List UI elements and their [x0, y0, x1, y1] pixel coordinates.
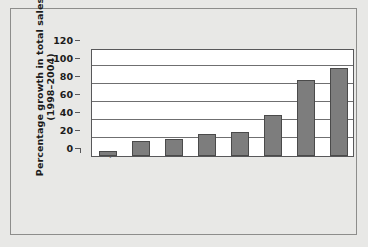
y-axis-tick-mark — [75, 130, 80, 131]
plot-area — [91, 49, 354, 157]
bar — [99, 151, 117, 156]
y-axis-tick-mark — [75, 112, 80, 113]
chart-frame: Percentage growth in total sales (1998–2… — [10, 8, 357, 235]
y-axis-tick-label: 40 — [47, 107, 73, 118]
bar — [198, 134, 216, 156]
bar — [132, 141, 150, 156]
gridline — [92, 65, 353, 66]
bar — [165, 139, 183, 156]
y-axis-tick-label: 60 — [47, 89, 73, 100]
y-axis-tick-label: 20 — [47, 125, 73, 136]
y-axis-tick-mark — [75, 40, 80, 41]
bar — [297, 80, 315, 156]
y-axis-tick-mark — [75, 58, 80, 59]
y-axis-tick-label: 100 — [47, 53, 73, 64]
bar — [330, 68, 348, 156]
chart-figure: Percentage growth in total sales (1998–2… — [0, 0, 368, 247]
bar — [231, 132, 249, 156]
y-axis-tick-mark — [75, 76, 80, 77]
y-axis-tick-label: 80 — [47, 71, 73, 82]
x-axis-tick-mark — [80, 148, 81, 153]
y-axis-tick-label: 0 — [47, 143, 73, 154]
bar — [264, 115, 282, 156]
y-axis-tick-mark — [75, 94, 80, 95]
y-axis-title-line-1: Percentage growth in total sales — [34, 0, 45, 176]
y-axis-tick-label: 120 — [47, 35, 73, 46]
